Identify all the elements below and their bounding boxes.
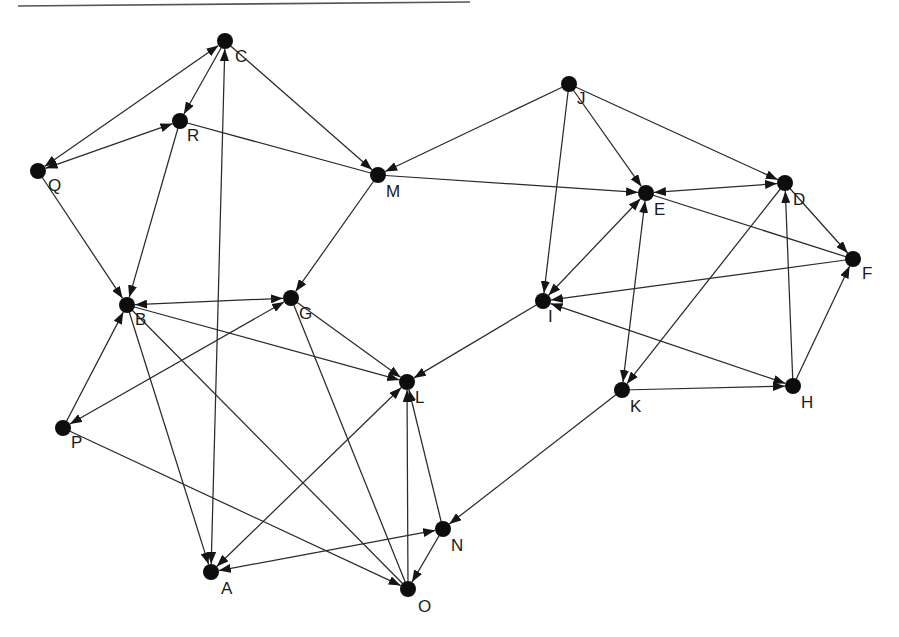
edge-g-o xyxy=(291,298,408,589)
node-g xyxy=(283,290,299,306)
edge-e-d xyxy=(654,184,777,193)
node-label-q: Q xyxy=(48,176,61,195)
node-r xyxy=(172,113,188,129)
node-m xyxy=(370,167,386,183)
node-label-o: O xyxy=(418,597,431,616)
edge-j-m xyxy=(385,84,569,172)
edge-a-n xyxy=(219,530,435,570)
edge-j-d xyxy=(569,84,778,180)
edge-i-h xyxy=(551,304,786,384)
edge-e-k xyxy=(623,201,645,382)
node-b xyxy=(119,297,135,313)
edge-p-o xyxy=(63,428,401,586)
edge-j-i xyxy=(544,84,569,293)
node-label-f: F xyxy=(862,264,872,283)
edge-k-h xyxy=(622,386,785,390)
node-label-g: G xyxy=(299,304,312,323)
edge-c-q xyxy=(45,46,219,167)
node-q xyxy=(30,163,46,179)
edge-a-l xyxy=(217,388,402,567)
edge-b-o xyxy=(127,305,408,589)
node-a xyxy=(203,564,219,580)
edge-n-o xyxy=(412,529,443,582)
node-label-l: L xyxy=(415,388,424,407)
node-k xyxy=(614,382,630,398)
node-j xyxy=(561,76,577,92)
node-label-d: D xyxy=(793,190,805,209)
node-label-c: C xyxy=(235,47,247,66)
edge-b-a xyxy=(127,305,209,564)
edges-layer xyxy=(38,41,853,589)
network-diagram: ABCDEFGHIJKLMNOPQR xyxy=(0,0,899,637)
edge-d-k xyxy=(627,183,785,384)
node-label-a: A xyxy=(221,579,233,598)
node-c xyxy=(217,33,233,49)
edge-c-r xyxy=(184,41,225,114)
edge-b-g xyxy=(135,298,283,304)
edge-a-c xyxy=(211,49,225,564)
node-label-j: J xyxy=(577,89,586,108)
edge-r-m xyxy=(180,121,378,175)
edge-k-n xyxy=(449,390,622,524)
node-label-i: I xyxy=(548,307,553,326)
node-d xyxy=(777,175,793,191)
node-label-m: M xyxy=(386,182,400,201)
edge-e-f xyxy=(646,193,853,259)
labels-layer: ABCDEFGHIJKLMNOPQR xyxy=(48,47,872,616)
node-label-b: B xyxy=(135,310,146,329)
edge-n-l xyxy=(409,390,443,529)
edge-e-i xyxy=(549,199,641,295)
node-o xyxy=(400,581,416,597)
node-label-h: H xyxy=(801,393,813,412)
edge-f-i xyxy=(551,259,853,300)
node-label-n: N xyxy=(451,536,463,555)
nodes-layer xyxy=(30,33,861,597)
node-label-p: P xyxy=(71,433,82,452)
edge-g-p xyxy=(70,302,284,424)
edge-m-e xyxy=(378,175,638,192)
node-f xyxy=(845,251,861,267)
node-label-r: R xyxy=(187,126,199,145)
edge-h-d xyxy=(785,191,793,386)
top-rule xyxy=(18,2,470,6)
node-h xyxy=(785,378,801,394)
node-label-e: E xyxy=(654,200,665,219)
edge-i-l xyxy=(414,301,543,378)
node-l xyxy=(399,374,415,390)
node-p xyxy=(55,420,71,436)
edge-o-l xyxy=(407,390,408,589)
edge-r-b xyxy=(129,121,180,297)
edge-h-f xyxy=(793,266,850,386)
edge-q-r xyxy=(46,124,173,169)
edge-m-g xyxy=(296,175,378,291)
node-e xyxy=(638,185,654,201)
node-label-k: K xyxy=(630,397,642,416)
node-n xyxy=(435,521,451,537)
